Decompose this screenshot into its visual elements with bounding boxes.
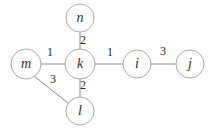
graph-node-k: k <box>65 49 95 79</box>
node-label-k: k <box>77 56 84 71</box>
edge-weight-n-k: 2 <box>80 33 86 47</box>
node-label-l: l <box>78 103 82 118</box>
node-label-m: m <box>21 56 31 71</box>
edge-weight-k-i: 1 <box>107 45 113 59</box>
graph-node-m: m <box>11 49 41 79</box>
graph-node-l: l <box>66 97 94 125</box>
node-label-i: i <box>135 56 139 71</box>
graph-node-j: j <box>176 50 204 78</box>
weighted-graph-figure: nmkijl 211323 <box>0 0 210 129</box>
edge-weight-k-l: 2 <box>80 78 86 92</box>
graph-node-i: i <box>123 50 151 78</box>
edges-layer <box>34 32 176 103</box>
graph-canvas: nmkijl 211323 <box>0 0 210 129</box>
graph-node-n: n <box>66 4 94 32</box>
edge-weight-m-k: 1 <box>47 45 53 59</box>
edge-weight-m-l: 3 <box>50 72 56 86</box>
edge-weight-i-j: 3 <box>160 44 166 58</box>
node-label-n: n <box>77 10 84 25</box>
